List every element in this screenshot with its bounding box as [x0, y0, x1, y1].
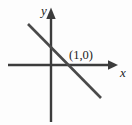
x-axis-label: x: [119, 65, 126, 80]
x-axis-arrow-icon: [108, 60, 118, 70]
graph-canvas: y x (1,0): [0, 0, 132, 125]
y-axis-arrow-icon: [46, 8, 55, 20]
y-axis-label: y: [39, 3, 47, 18]
point-label-1-0: (1,0): [69, 48, 93, 62]
coordinate-plane-figure: y x (1,0): [0, 0, 132, 125]
